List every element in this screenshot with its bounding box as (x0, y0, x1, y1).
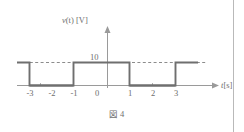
x-tick-label-minus2: -2 (44, 89, 60, 98)
x-tick-label-zero: 0 (92, 89, 102, 98)
x-axis-label-unit: [s] (223, 80, 232, 90)
x-axis-label: t[s] (221, 81, 232, 90)
x-axis-arrow (212, 83, 219, 89)
x-tick-label-two: 2 (147, 89, 159, 98)
x-tick-label-minus1: -1 (66, 89, 82, 98)
figure-container: v(t) [V] t[s] 10 -3 -2 -1 0 1 2 3 図 4 (0, 0, 244, 132)
level-value-label: 10 (90, 53, 99, 62)
y-axis-arrow (105, 26, 111, 33)
y-axis-label-unit: [V] (76, 15, 88, 25)
x-tick-label-minus3: -3 (22, 89, 38, 98)
x-tick-label-one: 1 (124, 89, 136, 98)
y-axis-label-arg: (t) (66, 15, 74, 25)
figure-caption: 図 4 (0, 110, 233, 119)
y-axis-label: v(t) [V] (62, 16, 88, 25)
x-tick-label-three: 3 (170, 89, 182, 98)
